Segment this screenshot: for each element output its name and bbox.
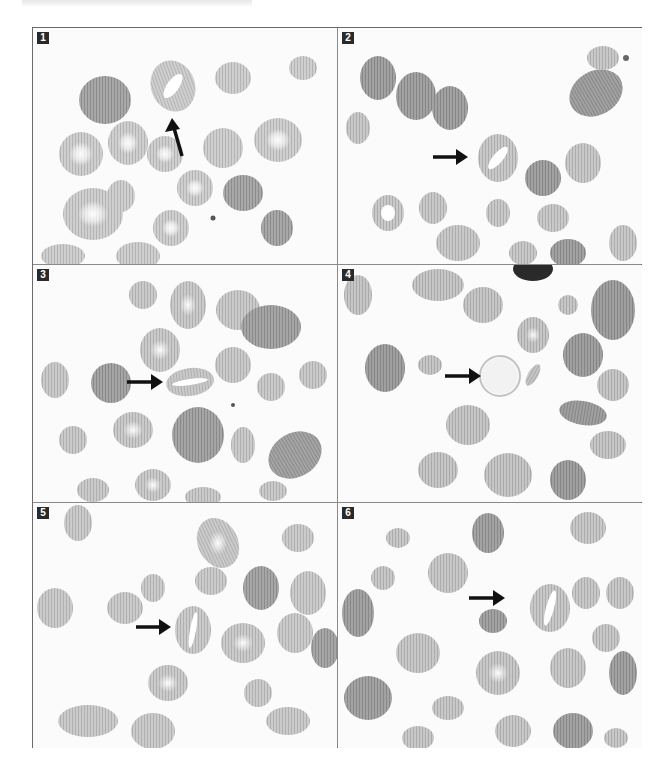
arrow-icon bbox=[433, 149, 468, 165]
panel-label: 6 bbox=[342, 507, 354, 519]
panel-label: 3 bbox=[37, 269, 49, 281]
panel-label: 2 bbox=[342, 32, 354, 44]
arrow-icon bbox=[127, 374, 163, 390]
micrograph-image bbox=[33, 28, 337, 264]
panel-2: 2 bbox=[338, 28, 642, 264]
panel-5: 5 bbox=[33, 503, 337, 748]
panel-label: 4 bbox=[342, 269, 354, 281]
figure-frame: 1 bbox=[32, 27, 642, 748]
arrow-icon bbox=[445, 368, 481, 384]
micrograph-image bbox=[33, 265, 337, 502]
micrograph-image bbox=[338, 265, 642, 502]
arrow-icon bbox=[469, 590, 505, 606]
cropped-caption-text bbox=[22, 0, 252, 6]
panel-1: 1 bbox=[33, 28, 337, 264]
panel-4: 4 bbox=[338, 265, 642, 502]
panel-label: 1 bbox=[37, 32, 49, 44]
micrograph-image bbox=[338, 503, 642, 748]
panel-6: 6 bbox=[338, 503, 642, 748]
micrograph-image bbox=[338, 28, 642, 264]
micrograph-image bbox=[33, 503, 337, 748]
panel-3: 3 bbox=[33, 265, 337, 502]
panel-label: 5 bbox=[37, 507, 49, 519]
arrow-icon bbox=[136, 619, 171, 635]
